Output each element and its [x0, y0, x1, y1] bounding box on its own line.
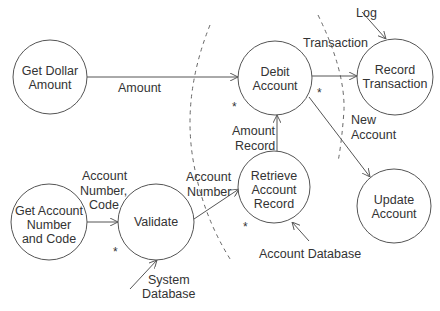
- node-label-line: Account: [371, 207, 417, 221]
- edge-label-amount-record-line1: Amount: [232, 124, 276, 138]
- star-marker-debit-right: *: [317, 86, 322, 100]
- node-update-account: Update Account: [357, 169, 431, 243]
- node-label-line: Debit: [260, 65, 290, 79]
- edge-label-log: Log: [356, 6, 377, 20]
- edge-label-amount: Amount: [118, 81, 162, 95]
- edge-label-account-number-line2: Number: [187, 185, 231, 199]
- node-label-line: Account: [252, 79, 298, 93]
- node-label-line: Amount: [28, 78, 72, 92]
- edge-label-system-database-line1: System: [148, 273, 190, 287]
- node-label-line: Account: [251, 183, 297, 197]
- edge-label-amount-record-line2: Record: [235, 139, 275, 153]
- edge-label-account-number-code-line2: Number,: [80, 184, 127, 198]
- node-label-line: Validate: [134, 215, 178, 229]
- node-validate: Validate: [118, 184, 194, 260]
- node-get-account-number-and-code: Get Account Number and Code: [11, 184, 87, 260]
- edge-label-account-number-code-line1: Account: [82, 169, 128, 183]
- data-flow-diagram: Get Dollar Amount Debit Account Record T…: [0, 0, 440, 311]
- edge-label-new-account-line1: New: [351, 113, 377, 127]
- node-label-line: Retrieve: [251, 169, 298, 183]
- edge-label-account-number-code-line3: Code: [89, 198, 119, 212]
- node-retrieve-account-record: Retrieve Account Record: [238, 151, 310, 223]
- node-label-line: Record: [254, 197, 294, 211]
- edge-account-database: [292, 222, 309, 241]
- node-label-line: Update: [374, 193, 414, 207]
- edge-label-new-account-line2: Account: [351, 128, 397, 142]
- node-label-line: Number: [27, 218, 71, 232]
- edge-label-transaction: Transaction: [303, 36, 368, 50]
- node-label-line: and Code: [22, 232, 76, 246]
- node-label-line: Get Account: [15, 204, 84, 218]
- boundary-left-dashed-arc: [190, 25, 232, 262]
- edge-label-account-database: Account Database: [259, 247, 361, 261]
- node-label-line: Get Dollar: [22, 64, 78, 78]
- star-marker-validate: *: [113, 245, 118, 259]
- star-marker-retrieve: *: [243, 220, 248, 234]
- edge-label-system-database-line2: Database: [142, 287, 196, 301]
- edge-label-account-number-line1: Account: [186, 170, 232, 184]
- node-get-dollar-amount: Get Dollar Amount: [13, 40, 87, 114]
- node-debit-account: Debit Account: [238, 41, 312, 115]
- node-record-transaction: Record Transaction: [357, 39, 433, 115]
- star-marker-debit-left: *: [232, 100, 237, 114]
- node-label-line: Transaction: [363, 77, 428, 91]
- node-label-line: Record: [375, 63, 415, 77]
